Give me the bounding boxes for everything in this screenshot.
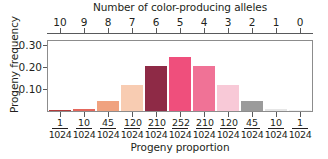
fraction-denominator: 1024	[119, 129, 145, 140]
fraction-numerator: 210	[148, 117, 164, 129]
top-axis-tick-label: 8	[96, 16, 120, 28]
bottom-axis-tick-mark	[252, 112, 253, 117]
top-axis-tick-label: 7	[120, 16, 144, 28]
fraction-denominator: 1024	[47, 129, 73, 140]
top-axis-tick-label: 1	[264, 16, 288, 28]
fraction-denominator: 1024	[263, 129, 289, 140]
top-axis-tick-mark	[60, 28, 61, 33]
fraction-denominator: 1024	[215, 129, 241, 140]
bottom-axis-tick-mark	[276, 112, 277, 117]
bar	[145, 66, 166, 111]
top-axis-tick-label: 2	[240, 16, 264, 28]
progeny-proportion-fraction: 1201024	[215, 117, 241, 140]
top-axis-tick-mark	[132, 28, 133, 33]
top-axis-tick-mark	[300, 28, 301, 33]
bar	[49, 110, 70, 111]
bar	[121, 85, 142, 111]
y-axis-tick-mark	[43, 67, 47, 68]
progeny-proportion-fraction: 1201024	[119, 117, 145, 140]
bottom-axis-title: Progeny proportion	[47, 141, 313, 153]
progeny-proportion-fraction: 11024	[47, 117, 73, 140]
progeny-proportion-fraction: 451024	[95, 117, 121, 140]
bottom-axis-tick-mark	[60, 112, 61, 117]
fraction-denominator: 1024	[71, 129, 97, 140]
y-axis-tick-label: 0.20	[10, 61, 42, 73]
fraction-numerator: 210	[196, 117, 212, 129]
bottom-axis-tick-mark	[300, 112, 301, 117]
bar	[193, 66, 214, 111]
bars-container	[48, 41, 312, 111]
progeny-proportion-fraction: 2101024	[143, 117, 169, 140]
bar	[97, 101, 118, 111]
top-axis-tick-mark	[108, 28, 109, 33]
fraction-denominator: 1024	[167, 129, 193, 140]
top-axis-title: Number of color-producing alleles	[47, 1, 313, 13]
fraction-numerator: 1	[292, 117, 308, 129]
top-axis-tick-label: 5	[168, 16, 192, 28]
progeny-proportion-fraction: 101024	[263, 117, 289, 140]
histogram-figure: Number of color-producing alleles 109876…	[0, 0, 328, 159]
bottom-axis-tick-labels: 1102410102445102412010242101024252102421…	[47, 117, 313, 141]
bar	[289, 110, 310, 111]
fraction-numerator: 10	[268, 117, 284, 129]
bar	[241, 101, 262, 111]
y-axis-tick-mark	[43, 89, 47, 90]
top-axis-tick-label: 6	[144, 16, 168, 28]
bar	[73, 109, 94, 111]
progeny-proportion-fraction: 101024	[71, 117, 97, 140]
fraction-numerator: 45	[244, 117, 260, 129]
top-axis-tick-mark	[156, 28, 157, 33]
progeny-proportion-fraction: 2521024	[167, 117, 193, 140]
bottom-axis-tick-mark	[108, 112, 109, 117]
bottom-axis-tick-mark	[132, 112, 133, 117]
bar	[169, 57, 190, 111]
fraction-denominator: 1024	[143, 129, 169, 140]
top-axis-tick-mark	[228, 28, 229, 33]
fraction-numerator: 120	[220, 117, 236, 129]
fraction-denominator: 1024	[287, 129, 313, 140]
bottom-axis-tick-mark	[156, 112, 157, 117]
bottom-axis-tick-mark	[180, 112, 181, 117]
progeny-proportion-fraction: 451024	[239, 117, 265, 140]
top-axis-line	[47, 33, 313, 34]
fraction-denominator: 1024	[239, 129, 265, 140]
bar	[265, 109, 286, 111]
top-axis-tick-label: 0	[288, 16, 312, 28]
y-axis-tick-mark	[43, 45, 47, 46]
y-axis-tick-label: 0.10	[10, 83, 42, 95]
bottom-axis-tick-mark	[84, 112, 85, 117]
progeny-proportion-fraction: 2101024	[191, 117, 217, 140]
top-axis-tick-mark	[276, 28, 277, 33]
top-axis-tick-mark	[180, 28, 181, 33]
top-axis-tick-label: 3	[216, 16, 240, 28]
fraction-denominator: 1024	[191, 129, 217, 140]
progeny-proportion-fraction: 11024	[287, 117, 313, 140]
top-axis-tick-label: 9	[72, 16, 96, 28]
top-axis-tick-label: 10	[48, 16, 72, 28]
fraction-denominator: 1024	[95, 129, 121, 140]
fraction-numerator: 1	[52, 117, 68, 129]
top-axis-tick-mark	[252, 28, 253, 33]
bottom-axis-tick-mark	[204, 112, 205, 117]
fraction-numerator: 120	[124, 117, 140, 129]
fraction-numerator: 252	[172, 117, 188, 129]
top-axis-tick-mark	[204, 28, 205, 33]
y-axis-tick-label: 0.30	[10, 39, 42, 51]
y-axis-tick-labels: 0.100.200.30	[10, 0, 42, 159]
fraction-numerator: 45	[100, 117, 116, 129]
top-axis-tick-mark	[84, 28, 85, 33]
top-axis-tick-label: 4	[192, 16, 216, 28]
bar	[217, 85, 238, 111]
bottom-axis-tick-mark	[228, 112, 229, 117]
fraction-numerator: 10	[76, 117, 92, 129]
